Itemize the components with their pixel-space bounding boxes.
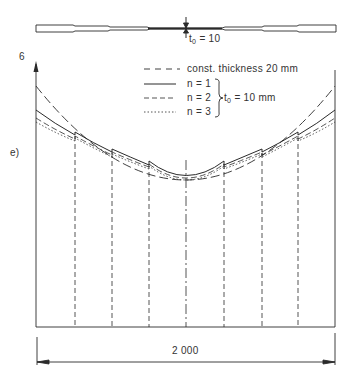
legend-samples	[144, 69, 180, 112]
legend-brace	[215, 79, 223, 117]
y-axis-arrow-icon	[34, 61, 39, 72]
thickness-arrow-icon	[184, 17, 189, 38]
t-value: = 10	[196, 33, 220, 44]
plate-thickness-label: t0 = 10	[189, 33, 220, 45]
legend-item-const: const. thickness 20 mm	[187, 63, 298, 74]
y-axis-label: 6	[19, 51, 25, 62]
legend-item-n3: n = 3	[187, 106, 211, 117]
dimension-label: 2 000	[172, 345, 199, 356]
legend-group-label: t0 = 10 mm	[224, 92, 276, 104]
legend-item-n2: n = 2	[187, 92, 211, 103]
curve-n2	[36, 118, 335, 178]
t-value: = 10 mm	[231, 92, 275, 103]
curve-const-thickness	[36, 86, 335, 180]
section-lines	[75, 136, 298, 327]
curve-n3	[36, 122, 335, 180]
panel-label: e)	[10, 147, 20, 158]
legend-item-n1: n = 1	[187, 78, 211, 89]
chart-frame	[36, 64, 335, 327]
curve-n1	[36, 110, 335, 176]
diagram-canvas	[0, 0, 349, 377]
